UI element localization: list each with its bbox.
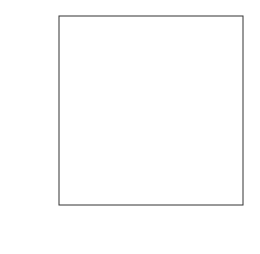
- plot-frame: [59, 16, 243, 205]
- dispersion-chart: [0, 0, 260, 254]
